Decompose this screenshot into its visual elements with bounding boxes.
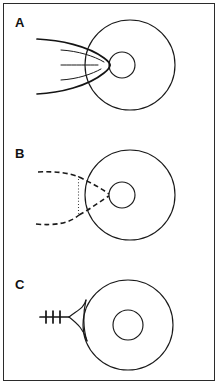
panel-b-dashed-upper-inner: [79, 177, 109, 194]
panel-label-b: B: [15, 146, 24, 161]
panel-b-inner-circle: [109, 182, 135, 208]
panel-c: C: [15, 277, 173, 370]
panel-c-outer-circle: [83, 280, 173, 370]
panel-a-streak-line-1: [61, 50, 104, 62]
panel-c-inner-circle: [113, 310, 143, 340]
panel-a-streamer-lower-edge: [37, 65, 110, 94]
panel-label-a: A: [15, 15, 25, 30]
panel-a-streamer-upper-edge: [37, 39, 110, 65]
panel-b-outer-circle: [85, 150, 175, 240]
panel-a: A: [15, 15, 175, 110]
panel-a-inner-circle: [109, 52, 135, 78]
panel-b: B: [15, 146, 175, 240]
panel-b-dashed-lower-inner: [79, 196, 109, 215]
panel-b-dashed-lower-outer: [36, 215, 79, 225]
figure-root: A B: [0, 0, 218, 384]
panel-label-c: C: [15, 277, 25, 292]
panel-b-dashed-upper-outer: [38, 172, 79, 177]
figure-canvas: A B: [0, 0, 218, 384]
